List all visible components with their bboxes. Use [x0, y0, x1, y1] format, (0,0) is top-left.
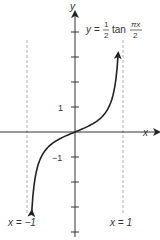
x-axis-label: x [142, 127, 149, 138]
asymptote-label-left: x = −1 [7, 217, 36, 228]
svg-text:2: 2 [104, 31, 109, 40]
asymptote-label-right: x = 1 [109, 217, 132, 228]
y-axis-label: y [69, 1, 76, 12]
y-tick-label-1: 1 [58, 103, 63, 113]
svg-text:=: = [94, 24, 100, 35]
function-label: y = 1 2 tan πx 2 [85, 20, 142, 40]
tan-graph: y x 1 −1 y = 1 2 tan πx 2 x = −1 x = 1 [0, 0, 160, 240]
svg-text:y: y [85, 24, 92, 35]
svg-text:πx: πx [131, 20, 141, 29]
y-tick-label-minus-1: −1 [52, 153, 62, 163]
svg-text:1: 1 [104, 20, 109, 29]
svg-text:tan: tan [112, 24, 126, 35]
svg-text:2: 2 [133, 31, 138, 40]
